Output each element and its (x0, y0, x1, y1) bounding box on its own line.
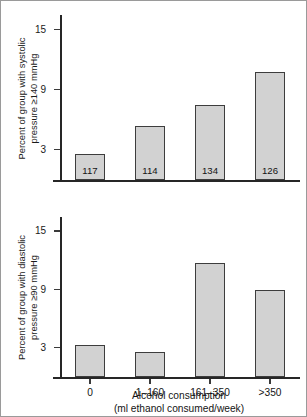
bar-systolic-0: 117 (75, 154, 105, 180)
bar-diastolic-1 (135, 352, 165, 377)
x-axis-title-line1: Alcohol consumption (60, 389, 298, 402)
bar-label-systolic-2: 134 (196, 165, 224, 176)
y-tick-diastolic-3: 3 (54, 347, 60, 348)
bar-diastolic-3 (255, 290, 285, 377)
bar-diastolic-0 (75, 345, 105, 377)
y-axis-title-systolic: Percent of group with systolic pressure … (16, 15, 39, 182)
plot-area-systolic: 15 9 3 117 114 134 126 (60, 15, 300, 182)
chart-panel-diastolic: Percent of group with diastolic pressure… (1, 187, 307, 417)
x-axis-title-line2: (ml ethanol consumed/week) (60, 402, 298, 415)
x-tick-3 (269, 379, 270, 384)
bar-systolic-1: 114 (135, 126, 165, 180)
bar-label-systolic-0: 117 (76, 165, 104, 176)
y-axis-line-diastolic (60, 217, 62, 379)
y-axis-title-systolic-line1: Percent of group with systolic (16, 15, 28, 182)
y-axis-title-diastolic-line2: pressure ≥90 mmHg (27, 217, 39, 379)
y-axis-line-systolic (60, 15, 62, 182)
y-axis-title-systolic-line2: pressure ≥140 mmHg (27, 15, 39, 182)
y-tick-label-systolic-3: 3 (40, 143, 46, 154)
y-tick-systolic-3: 3 (54, 149, 60, 150)
x-axis-line-systolic (53, 180, 300, 182)
bar-systolic-2: 134 (195, 105, 225, 180)
y-tick-diastolic-9: 9 (54, 289, 60, 290)
bar-label-systolic-1: 114 (136, 165, 164, 176)
y-tick-diastolic-15: 15 (54, 230, 60, 231)
y-tick-label-systolic-9: 9 (40, 83, 46, 94)
bar-systolic-3: 126 (255, 72, 285, 180)
bar-diastolic-2 (195, 263, 225, 378)
y-tick-label-diastolic-3: 3 (40, 341, 46, 352)
y-tick-systolic-15: 15 (54, 29, 60, 30)
x-tick-0 (89, 379, 90, 384)
x-axis-title: Alcohol consumption (ml ethanol consumed… (60, 389, 298, 415)
figure-container: Percent of group with systolic pressure … (0, 0, 307, 417)
plot-area-diastolic: 15 9 3 0 1–160 161–350 >350 (60, 217, 300, 379)
bar-label-systolic-3: 126 (256, 165, 284, 176)
x-tick-2 (209, 379, 210, 384)
y-tick-systolic-9: 9 (54, 89, 60, 90)
x-tick-1 (149, 379, 150, 384)
y-tick-label-diastolic-15: 15 (35, 225, 46, 236)
y-tick-label-diastolic-9: 9 (40, 283, 46, 294)
y-tick-label-systolic-15: 15 (35, 23, 46, 34)
y-axis-title-diastolic-line1: Percent of group with diastolic (16, 217, 28, 379)
chart-panel-systolic: Percent of group with systolic pressure … (1, 1, 307, 187)
y-axis-title-diastolic: Percent of group with diastolic pressure… (16, 217, 39, 379)
